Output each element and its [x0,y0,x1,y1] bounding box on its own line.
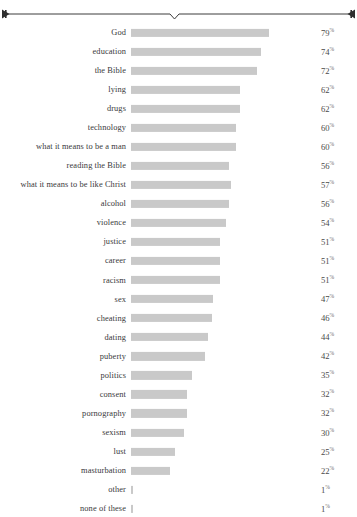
chart-bar [131,219,226,227]
chart-row-value: 42% [315,351,357,361]
chart-row-label: lust [0,447,131,456]
chart-bar-track [131,295,315,303]
percent-sign: % [330,217,335,223]
chart-row-value-number: 22 [321,466,330,476]
chart-bar-area [131,23,315,42]
chart-bar-area [131,461,315,480]
chart-bar [131,200,229,208]
percent-sign: % [330,312,335,318]
chart-bar-track [131,47,315,55]
chart-bar [131,352,205,360]
chart-row: justice51% [0,233,357,252]
decorative-divider-rule [0,6,357,22]
chart-row: pornography32% [0,404,357,423]
chart-row-label: dating [0,333,131,342]
chart-bar [131,257,220,265]
chart-row-value-number: 62 [321,104,330,114]
percent-sign: % [330,65,335,71]
chart-bar-area [131,423,315,442]
chart-row-value: 56% [315,161,357,171]
chart-row-label: education [0,47,131,56]
percent-sign: % [330,160,335,166]
percent-sign: % [330,236,335,242]
chart-bar [131,162,229,170]
chart-row-value: 25% [315,447,357,457]
chart-bar-track [131,486,315,494]
chart-row-value: 44% [315,332,357,342]
chart-bar [131,295,213,303]
chart-row-value: 22% [315,466,357,476]
percent-sign: % [330,103,335,109]
chart-bar-area [131,480,315,499]
chart-row-label: the Bible [0,66,131,75]
chart-row-label: God [0,28,131,37]
chart-row: sex47% [0,290,357,309]
chart-row-label: career [0,256,131,265]
horizontal-bar-chart: God79%education74%the Bible72%lying62%dr… [0,23,357,517]
chart-row-value-number: 47 [321,294,330,304]
chart-row-label: reading the Bible [0,161,131,170]
chart-row: education74% [0,42,357,61]
chart-bar-track [131,219,315,227]
chart-bar-area [131,404,315,423]
chart-row-value: 51% [315,256,357,266]
chart-bar [131,124,236,132]
chart-bar [131,371,192,379]
chart-row: alcohol56% [0,194,357,213]
chart-bar-track [131,28,315,36]
chart-row-label: technology [0,123,131,132]
chart-bar-track [131,409,315,417]
chart-bar-area [131,156,315,175]
chart-row-value: 1% [315,504,357,514]
chart-bar-track [131,105,315,113]
percent-sign: % [330,370,335,376]
percent-sign: % [325,484,330,490]
chart-bar-track [131,162,315,170]
chart-bar-track [131,86,315,94]
chart-bar-track [131,276,315,284]
chart-row-value-number: 51 [321,237,330,247]
chart-bar-track [131,257,315,265]
chart-row: puberty42% [0,347,357,366]
chart-bar [131,143,236,151]
chart-row-value-number: 54 [321,218,330,228]
chart-bar-track [131,238,315,246]
chart-bar-area [131,80,315,99]
chart-row-value: 30% [315,428,357,438]
chart-row-value-number: 35 [321,370,330,380]
chart-bar [131,105,240,113]
percent-sign: % [330,350,335,356]
chart-row: reading the Bible56% [0,156,357,175]
chart-row: career51% [0,252,357,271]
chart-bar-area [131,328,315,347]
chart-row-value-number: 79 [321,28,330,38]
chart-bar-area [131,252,315,271]
chart-row: consent32% [0,385,357,404]
chart-bar-track [131,505,315,513]
chart-row: other1% [0,480,357,499]
percent-sign: % [330,465,335,471]
chart-row-label: lying [0,85,131,94]
chart-bar [131,486,133,494]
chart-row-label: politics [0,371,131,380]
percent-sign: % [330,408,335,414]
chart-row-value-number: 57 [321,180,330,190]
chart-bar [131,276,220,284]
chart-row-label: alcohol [0,199,131,208]
chart-bar-area [131,385,315,404]
chart-bar [131,86,240,94]
chart-row-value-number: 51 [321,275,330,285]
percent-sign: % [330,446,335,452]
chart-bar [131,505,133,513]
chart-row: politics35% [0,366,357,385]
percent-sign: % [330,179,335,185]
chart-row-label: racism [0,276,131,285]
chart-bar-track [131,352,315,360]
chart-row-value: 56% [315,199,357,209]
chart-row-label: drugs [0,104,131,113]
chart-row-value: 60% [315,123,357,133]
chart-row-value-number: 60 [321,142,330,152]
chart-bar-track [131,124,315,132]
chart-bar-track [131,181,315,189]
